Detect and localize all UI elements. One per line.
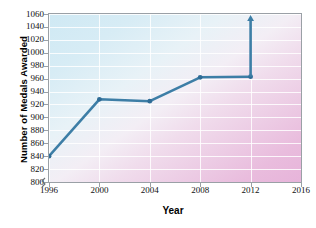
x-tick-mark (150, 183, 151, 187)
x-axis-label: Year (0, 205, 316, 216)
chart-figure: Number of Medals Awarded 800820840860880… (0, 0, 316, 228)
data-line (49, 77, 251, 157)
y-tick-label: 880 (0, 126, 44, 135)
y-tick-label: 900 (0, 113, 44, 122)
arrow-head (247, 15, 254, 21)
y-tick-label: 840 (0, 152, 44, 161)
plot-area (48, 13, 302, 183)
y-tick-label: 1020 (0, 35, 44, 44)
y-tick-label: 1040 (0, 22, 44, 31)
data-point-marker (198, 75, 203, 80)
y-tick-label: 860 (0, 139, 44, 148)
gridline-horizontal (49, 182, 301, 183)
data-point-marker (97, 97, 102, 102)
x-axis-label-text: Year (162, 205, 183, 216)
x-tick-mark (251, 183, 252, 187)
y-tick-label: 920 (0, 100, 44, 109)
y-tick-label: 940 (0, 87, 44, 96)
y-tick-label: 980 (0, 61, 44, 70)
y-tick-label: 960 (0, 74, 44, 83)
data-series-svg (49, 14, 301, 182)
x-tick-mark (200, 183, 201, 187)
y-tick-label: 1060 (0, 10, 44, 19)
data-point-marker (147, 99, 152, 104)
x-tick-label: 2016 (271, 186, 316, 195)
data-markers (49, 74, 253, 158)
upward-arrow-icon (247, 15, 254, 77)
axis-break-icon (41, 176, 50, 188)
gridline-vertical (301, 14, 302, 182)
x-tick-mark (99, 183, 100, 187)
y-tick-label: 820 (0, 165, 44, 174)
x-tick-mark (301, 183, 302, 187)
y-tick-label: 1000 (0, 48, 44, 57)
